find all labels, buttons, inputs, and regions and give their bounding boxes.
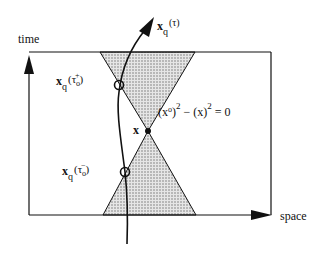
space-axis-label: space xyxy=(280,209,307,223)
future-light-cone xyxy=(100,52,195,131)
worldline-label: xq(τ) xyxy=(157,17,180,37)
space-axis-arrow-icon xyxy=(251,210,272,220)
time-axis-arrow-icon xyxy=(24,55,34,74)
upper-event-label: xq(τo+) xyxy=(56,71,84,92)
time-axis-label: time xyxy=(18,32,39,46)
lightcone-diagram: time space xq(τ) xq(τo+) xq(τo−) x (xo)2… xyxy=(0,0,324,260)
apex-point xyxy=(145,128,151,134)
past-light-cone xyxy=(103,131,196,215)
lower-event-label: xq(τo−) xyxy=(62,161,90,182)
apex-label: x xyxy=(133,123,139,137)
cone-equation: (xo)2 − (x)2 = 0 xyxy=(158,101,231,119)
time-axis xyxy=(24,55,34,215)
